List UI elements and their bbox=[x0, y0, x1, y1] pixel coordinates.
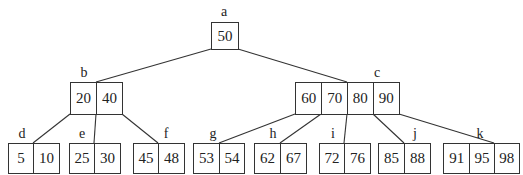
node-key: 85 bbox=[379, 144, 404, 173]
node-label-d: d bbox=[15, 127, 29, 141]
edge-c-h bbox=[280, 114, 321, 143]
node-label-h: h bbox=[266, 127, 280, 141]
node-h: 62 67 bbox=[254, 143, 307, 174]
node-j: 85 88 bbox=[378, 143, 431, 174]
node-key: 76 bbox=[344, 144, 370, 173]
node-key: 54 bbox=[219, 144, 244, 173]
node-b: 20 40 bbox=[70, 82, 123, 115]
node-key: 10 bbox=[33, 144, 59, 173]
edge-b-d bbox=[33, 114, 70, 143]
node-g: 53 54 bbox=[193, 143, 245, 174]
edge-a-b bbox=[96, 49, 211, 82]
node-key: 30 bbox=[94, 144, 120, 173]
node-key: 88 bbox=[404, 144, 430, 173]
node-label-e: e bbox=[75, 127, 89, 141]
node-key: 48 bbox=[158, 144, 184, 173]
node-key: 45 bbox=[134, 144, 158, 173]
node-key: 70 bbox=[321, 83, 347, 114]
node-key: 80 bbox=[347, 83, 373, 114]
node-f: 45 48 bbox=[133, 143, 185, 174]
node-e: 25 30 bbox=[69, 143, 121, 174]
node-i: 72 76 bbox=[319, 143, 371, 174]
node-label-g: g bbox=[206, 127, 220, 141]
node-key: 40 bbox=[96, 83, 122, 114]
node-label-a: a bbox=[217, 5, 231, 19]
node-key: 90 bbox=[373, 83, 399, 114]
node-key: 53 bbox=[194, 144, 219, 173]
node-d: 5 10 bbox=[8, 143, 60, 174]
edge-c-j bbox=[373, 114, 404, 143]
edge-a-c bbox=[238, 49, 347, 82]
node-key: 91 bbox=[444, 144, 469, 173]
edge-b-f bbox=[122, 114, 158, 143]
node-key: 50 bbox=[212, 23, 238, 49]
node-a: 50 bbox=[211, 22, 239, 50]
node-key: 72 bbox=[320, 144, 344, 173]
node-label-c: c bbox=[370, 66, 384, 80]
node-key: 67 bbox=[280, 144, 306, 173]
edge-c-i bbox=[344, 114, 347, 143]
edge-c-g bbox=[219, 114, 295, 143]
node-c: 60 70 80 90 bbox=[295, 82, 400, 115]
node-label-j: j bbox=[408, 127, 422, 141]
node-label-k: k bbox=[473, 127, 487, 141]
node-label-b: b bbox=[77, 66, 91, 80]
node-key: 98 bbox=[494, 144, 519, 173]
node-label-f: f bbox=[159, 127, 173, 141]
node-key: 95 bbox=[469, 144, 493, 173]
edge-b-e bbox=[94, 114, 96, 143]
node-key: 5 bbox=[9, 144, 33, 173]
node-k: 91 95 98 bbox=[443, 143, 520, 174]
node-label-i: i bbox=[326, 127, 340, 141]
node-key: 60 bbox=[296, 83, 321, 114]
node-key: 25 bbox=[70, 144, 94, 173]
node-key: 62 bbox=[255, 144, 280, 173]
node-key: 20 bbox=[71, 83, 96, 114]
